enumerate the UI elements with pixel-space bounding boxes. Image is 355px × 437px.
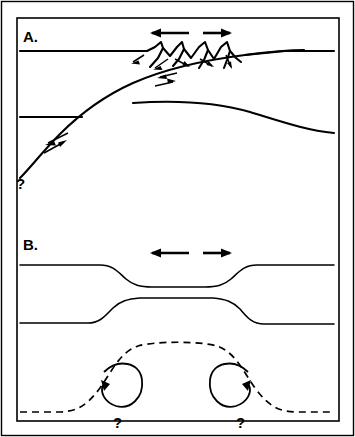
panel-b-right-question-mark: ?: [236, 414, 245, 431]
panel-a-extension-arrows: [150, 29, 232, 38]
panel-a-upper-surface-right: [245, 51, 334, 55]
panel-b-left-convection-cell: [101, 364, 142, 407]
panel-a-left-extension-arrow: [150, 29, 189, 38]
panel-b-extension-arrows: [150, 249, 232, 258]
panel-a-shear-couple-upper: [155, 73, 177, 86]
panel-a-shear-arrow-upper-bottom: [155, 79, 176, 87]
panel-a: A.: [16, 28, 334, 192]
figure-outer-border: [2, 2, 354, 436]
panel-a-shear-arrow-lower-top: [45, 133, 68, 146]
panel-b: B. ?: [20, 236, 334, 431]
panel-b-right-convection-cell: [210, 364, 251, 407]
panel-a-right-extension-arrow: [203, 29, 232, 38]
panel-b-upper-surface: [20, 265, 334, 287]
panel-a-slip-arrow-1: [131, 55, 144, 65]
figure-inner-border: [17, 18, 339, 421]
panel-a-mid-layer-right: [133, 102, 334, 133]
panel-b-label: B.: [23, 236, 38, 253]
panel-a-shear-couple-lower: [44, 133, 68, 153]
geological-cross-section-diagram: A.: [0, 0, 355, 437]
panel-b-asthenosphere-boundary: [20, 342, 334, 412]
panel-b-lower-crust-boundary: [20, 298, 334, 324]
figure-container: A.: [0, 0, 355, 437]
panel-b-left-extension-arrow: [150, 249, 189, 258]
panel-b-right-extension-arrow: [203, 249, 232, 258]
panel-b-left-question-mark: ?: [113, 414, 122, 431]
panel-a-question-mark: ?: [16, 175, 25, 192]
panel-a-label: A.: [23, 28, 38, 45]
